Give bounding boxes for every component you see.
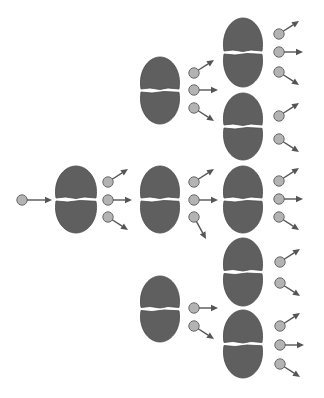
neutron-icon — [103, 212, 113, 222]
neutron-icon — [275, 278, 285, 288]
nucleus-g2-n2 — [140, 166, 179, 233]
nucleus-g3-n5 — [223, 310, 262, 378]
neutron-icon — [189, 103, 199, 113]
neutron-arrow-icon — [283, 21, 299, 31]
neutron-icon — [189, 85, 199, 95]
neutron-icon — [189, 68, 199, 78]
fragment-top-icon — [223, 18, 262, 52]
fragment-top-icon — [140, 276, 179, 308]
neutron-arrow-icon — [284, 367, 300, 377]
fragment-top-icon — [223, 93, 262, 126]
fragment-bottom-icon — [223, 201, 262, 234]
fragment-bottom-icon — [223, 128, 262, 161]
neutron-arrow-icon — [283, 168, 299, 178]
neutron-icon — [274, 29, 284, 39]
neutron-icon — [189, 177, 199, 187]
neutron-icon — [274, 194, 284, 204]
neutron-icon — [189, 195, 199, 205]
neutron-icon — [274, 212, 284, 222]
fragment-top-icon — [223, 310, 262, 343]
fragment-bottom-icon — [223, 345, 262, 378]
neutron-icon — [275, 321, 285, 331]
neutron-arrow-icon — [284, 313, 300, 323]
neutron-arrow-icon — [285, 342, 304, 348]
neutron-icon — [275, 340, 285, 350]
fragment-bottom-icon — [140, 201, 179, 234]
nucleus-g2-n3 — [140, 276, 179, 342]
neutron-arrow-icon — [283, 75, 299, 85]
neutron-arrow-icon — [196, 221, 206, 239]
nucleus-g2-n1 — [140, 57, 179, 124]
fragment-bottom-icon — [223, 54, 262, 88]
neutron-arrow-icon — [284, 249, 300, 259]
neutron-arrow-icon — [199, 305, 218, 311]
fragment-top-icon — [140, 166, 179, 199]
neutron-arrow-icon — [198, 169, 214, 179]
neutron-icon — [103, 195, 113, 205]
neutron-icon — [274, 111, 284, 121]
nucleus-g3-n3 — [223, 166, 262, 233]
neutron-arrow-icon — [199, 87, 218, 93]
neutron-icon — [189, 321, 199, 331]
nucleus-g3-n2 — [223, 93, 262, 160]
neutron-icon — [103, 177, 113, 187]
nucleus-g1-n1 — [55, 166, 96, 233]
fragment-top-icon — [55, 166, 96, 199]
neutron-icon — [274, 47, 284, 57]
neutron-arrow-icon — [198, 111, 214, 121]
neutron-icon — [189, 212, 199, 222]
incoming-neutron-icon — [17, 195, 27, 205]
neutron-arrow-icon — [284, 49, 303, 55]
fission-chain-diagram — [0, 0, 324, 398]
neutron-arrow-icon — [112, 220, 128, 230]
neutron-arrow-icon — [198, 60, 214, 70]
neutron-icon — [274, 67, 284, 77]
neutron-arrow-icon — [198, 329, 214, 339]
neutron-arrow-icon — [283, 220, 299, 230]
neutron-arrow-icon — [284, 196, 303, 202]
fragment-bottom-icon — [140, 92, 179, 125]
neutron-icon — [274, 134, 284, 144]
neutron-arrow-icon — [113, 197, 132, 203]
nucleus-g3-n1 — [223, 18, 262, 87]
neutron-icon — [274, 176, 284, 186]
fragment-top-icon — [140, 57, 179, 90]
neutron-icon — [275, 257, 285, 267]
neutron-arrow-icon — [283, 142, 299, 152]
neutron-arrow-icon — [283, 103, 299, 113]
incoming-arrow-icon — [27, 197, 52, 203]
fragment-bottom-icon — [55, 201, 96, 234]
fragment-top-icon — [223, 238, 262, 271]
neutron-icon — [189, 303, 199, 313]
fragment-top-icon — [223, 166, 262, 199]
fragment-bottom-icon — [140, 310, 179, 342]
neutron-arrow-icon — [199, 197, 218, 203]
nucleus-g3-n4 — [223, 238, 262, 306]
fragment-bottom-icon — [223, 273, 262, 306]
neutron-icon — [275, 359, 285, 369]
neutron-arrow-icon — [112, 169, 128, 179]
neutron-arrow-icon — [284, 286, 300, 296]
